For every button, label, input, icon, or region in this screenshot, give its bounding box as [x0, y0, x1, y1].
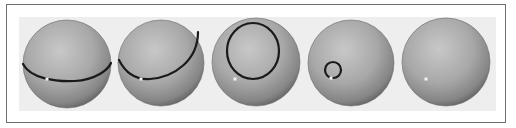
spheres-diagram: [0, 0, 516, 128]
base-point-marker: [425, 78, 428, 81]
sphere-body: [118, 20, 204, 106]
base-point-marker: [46, 78, 49, 81]
sphere-3: [212, 18, 300, 106]
sphere-body: [308, 20, 394, 106]
sphere-body: [23, 20, 111, 108]
sphere-1: [23, 20, 111, 108]
sphere-body: [212, 18, 300, 106]
sphere-body: [402, 18, 490, 106]
base-point-marker: [140, 78, 143, 81]
base-point-marker: [234, 78, 237, 81]
sphere-5: [402, 18, 490, 106]
base-point-marker: [330, 77, 333, 80]
sphere-2: [118, 20, 204, 106]
sphere-4: [308, 20, 394, 106]
